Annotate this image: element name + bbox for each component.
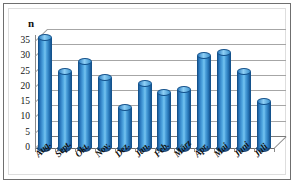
category-label-dez: Dez. (113, 140, 132, 159)
category-label-sept: Sept. (53, 139, 73, 159)
category-label-jan: Jan. (133, 140, 152, 159)
category-label-aug: Aug. (33, 139, 53, 159)
category-label-juni: Juni (232, 140, 251, 159)
category-label-nov: Nov. (93, 140, 112, 159)
chart-frame: n 35302520151050 Aug.Sept.Okt.Nov.Dez.Ja… (3, 3, 291, 180)
plot-area: 35302520151050 Aug.Sept.Okt.Nov.Dez.Jan.… (4, 4, 292, 181)
category-label-juli: Juli (252, 142, 269, 159)
category-label-märz: März (172, 138, 193, 159)
category-label-okt: Okt. (73, 141, 91, 159)
category-label-feb: Feb. (152, 140, 171, 159)
category-label-apr: Apr. (192, 141, 210, 159)
category-axis-tick-labels: Aug.Sept.Okt.Nov.Dez.Jan.Feb.MärzApr.Mai… (4, 4, 292, 181)
category-label-mai: Mai (212, 141, 230, 159)
